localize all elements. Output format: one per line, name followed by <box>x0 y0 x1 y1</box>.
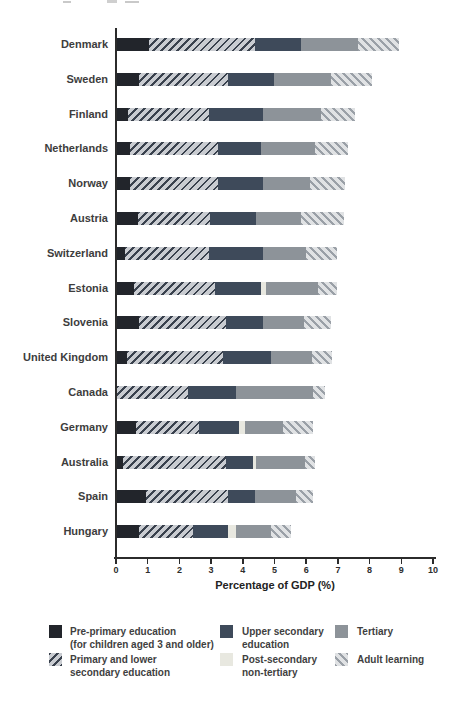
bar-segment <box>263 247 306 260</box>
x-tick-label: 3 <box>201 565 221 575</box>
country-label: Estonia <box>0 282 108 295</box>
bar-segment <box>117 282 134 295</box>
bar-segment <box>236 525 271 538</box>
bar-segment <box>117 247 125 260</box>
legend-swatch <box>49 625 62 638</box>
stacked-bar <box>117 177 345 190</box>
legend-label: Upper secondary <box>242 625 324 638</box>
bar-segment <box>271 525 292 538</box>
country-label: Spain <box>0 490 108 503</box>
x-tick-label: 1 <box>138 565 158 575</box>
bar-segment <box>146 490 228 503</box>
legend-swatch <box>220 653 233 666</box>
bar-segment <box>256 456 305 469</box>
country-label: Netherlands <box>0 142 108 155</box>
bar-segment <box>263 316 304 329</box>
bar-row-germany: Germany <box>0 421 465 434</box>
y-axis-line <box>115 28 117 559</box>
bar-row-australia: Australia <box>0 456 465 469</box>
bar-segment <box>283 421 313 434</box>
stacked-bar <box>117 351 332 364</box>
bar-row-finland: Finland <box>0 108 465 121</box>
x-tick-label: 9 <box>391 565 411 575</box>
bar-segment <box>321 108 354 121</box>
bar-segment <box>134 282 215 295</box>
bar-segment <box>117 142 130 155</box>
bar-segment <box>117 108 128 121</box>
bar-row-united-kingdom: United Kingdom <box>0 351 465 364</box>
x-tick-label: 8 <box>360 565 380 575</box>
legend-swatch <box>220 625 233 638</box>
bar-segment <box>117 316 139 329</box>
bar-segment <box>305 456 315 469</box>
stacked-bar <box>117 247 337 260</box>
bar-row-sweden: Sweden <box>0 73 465 86</box>
bar-segment <box>266 282 318 295</box>
country-label: Slovenia <box>0 316 108 329</box>
bar-segment <box>136 421 199 434</box>
bar-segment <box>130 177 219 190</box>
x-tick-label: 2 <box>169 565 189 575</box>
stacked-bar <box>117 490 313 503</box>
bar-segment <box>218 142 261 155</box>
x-tick <box>115 559 117 564</box>
country-label: Switzerland <box>0 247 108 260</box>
bar-row-hungary: Hungary <box>0 525 465 538</box>
x-tick <box>210 559 212 564</box>
bar-segment <box>228 525 236 538</box>
bar-segment <box>139 525 193 538</box>
bar-segment <box>139 73 228 86</box>
country-label: Denmark <box>0 38 108 51</box>
bar-segment <box>117 212 138 225</box>
bar-segment <box>228 73 274 86</box>
x-tick <box>274 559 276 564</box>
stacked-bar <box>117 212 344 225</box>
x-tick-label: 4 <box>233 565 253 575</box>
bar-segment <box>256 212 300 225</box>
legend-label: Primary and lower <box>70 653 157 666</box>
bar-row-switzerland: Switzerland <box>0 247 465 260</box>
bar-segment <box>117 73 139 86</box>
stacked-bar <box>117 282 337 295</box>
x-tick <box>305 559 307 564</box>
bar-row-spain: Spain <box>0 490 465 503</box>
country-label: Hungary <box>0 525 108 538</box>
x-tick <box>337 559 339 564</box>
bar-segment <box>296 490 313 503</box>
bar-segment <box>318 282 337 295</box>
bar-segment <box>117 386 188 399</box>
bar-segment <box>310 177 345 190</box>
bar-segment <box>149 38 255 51</box>
bar-segment <box>215 282 261 295</box>
stacked-bar <box>117 73 372 86</box>
bar-segment <box>331 73 372 86</box>
bar-segment <box>218 177 262 190</box>
bar-segment <box>312 351 333 364</box>
bar-segment <box>117 38 149 51</box>
country-label: Finland <box>0 108 108 121</box>
bar-segment <box>117 490 146 503</box>
legend-label: (for children aged 3 and older) <box>70 638 214 651</box>
bar-segment <box>306 247 338 260</box>
bar-segment <box>226 316 263 329</box>
bar-segment <box>117 177 130 190</box>
x-tick <box>147 559 149 564</box>
stacked-bar <box>117 421 313 434</box>
stacked-bar <box>117 142 348 155</box>
x-tick <box>179 559 181 564</box>
bar-segment <box>263 177 311 190</box>
legend-label: Adult learning <box>357 653 424 666</box>
cropped-text-remnant <box>55 0 165 4</box>
bar-row-canada: Canada <box>0 386 465 399</box>
bar-segment <box>245 421 283 434</box>
bar-row-estonia: Estonia <box>0 282 465 295</box>
bar-segment <box>274 73 331 86</box>
chart-canvas: DenmarkSwedenFinlandNetherlandsNorwayAus… <box>0 0 465 715</box>
x-tick-label: 6 <box>296 565 316 575</box>
bar-segment <box>123 456 226 469</box>
bar-segment <box>301 212 344 225</box>
legend-swatch <box>49 653 62 666</box>
bar-segment <box>139 316 226 329</box>
bar-segment <box>127 351 224 364</box>
legend-label: Pre-primary education <box>70 625 176 638</box>
